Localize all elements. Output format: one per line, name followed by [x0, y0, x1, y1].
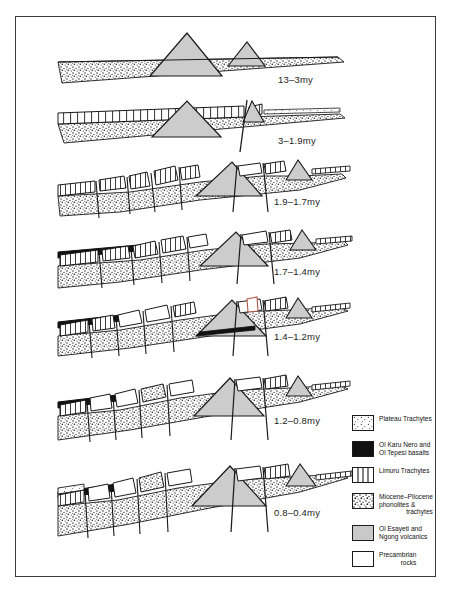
fault-block-6 [270, 230, 292, 243]
fault-block-3 [113, 478, 136, 497]
stage-4-section [58, 230, 352, 288]
legend-swatch-plateau-trachytes [352, 415, 374, 431]
stage-5-section [58, 297, 350, 358]
legend-swatch-miocene-pliocene [352, 493, 374, 509]
stage-label-2: 3–1.9my [278, 135, 316, 146]
fault-block-summit [236, 377, 262, 391]
stage-label-6: 1.2–0.8my [274, 415, 320, 426]
stage-label-1: 13–3my [278, 74, 313, 85]
legend-label-precambrian-rocks: Precambrian rocks [379, 550, 416, 566]
legend-item-ol-esayeti-ngong: Ol Esayeti and Ngong volcanics [352, 524, 438, 544]
legend-label-ol-esayeti-ngong: Ol Esayeti and Ngong volcanics [379, 524, 427, 540]
stage-6-section [58, 375, 350, 442]
fault-block-5 [169, 380, 194, 396]
stage-7-section [58, 464, 352, 538]
legend-swatch-ol-karu-nero-basalts [352, 441, 374, 457]
stage-label-7: 0.8–0.4my [274, 507, 320, 518]
stage-label-3: 1.9–1.7my [274, 196, 320, 207]
fault-block-5 [188, 234, 208, 248]
fault-block-3 [133, 241, 158, 258]
fault-block-2 [99, 176, 126, 191]
legend-line-2: rocks [379, 559, 416, 567]
legend-item-miocene-pliocene: Miocene–Pliocene phonolites & trachytes [352, 492, 438, 518]
legend-label-limuru-trachytes: Limuru Trachytes [379, 466, 430, 475]
legend-item-plateau-trachytes: Plateau Trachytes [352, 414, 438, 434]
volcano-cone-secondary [286, 160, 312, 180]
stage-3-section [58, 160, 350, 218]
fault-block-4 [141, 384, 166, 402]
fault-block-3 [129, 172, 150, 189]
fault-block-summit [236, 466, 262, 481]
volcano-cone-secondary [286, 376, 312, 396]
legend-label-ol-karu-nero-basalts: Ol Karu Nero and Ol Tepesi basalts [379, 440, 430, 456]
fault-block-summit [242, 231, 268, 245]
plateau-trachytes-capping [316, 236, 352, 244]
fault-block-6 [264, 297, 288, 311]
plateau-trachytes-capping [264, 108, 340, 114]
fault-block-4 [139, 472, 164, 492]
fault-block-5 [173, 302, 196, 317]
volcano-cone-ngong-main [150, 33, 222, 76]
fault-block-5 [167, 469, 192, 486]
legend-line-3: trachytes [379, 508, 433, 516]
legend-item-limuru-trachytes: Limuru Trachytes [352, 466, 438, 486]
legend-line-1: Miocene–Pliocene [379, 493, 433, 500]
legend-label-plateau-trachytes: Plateau Trachytes [379, 414, 432, 423]
fault-block-6 [264, 161, 286, 174]
volcano-cone-secondary [286, 298, 312, 318]
legend-line-2: Ngong volcanics [379, 533, 427, 541]
stage-label-4: 1.7–1.4my [274, 266, 320, 277]
legend-line-1: Ol Esayeti and [379, 525, 422, 532]
legend-swatch-limuru-trachytes [352, 467, 374, 483]
plateau-trachytes-capping [312, 166, 350, 174]
legend-line-1: Limuru Trachytes [379, 467, 430, 474]
volcano-cone-secondary [286, 464, 316, 486]
legend-item-ol-karu-nero-basalts: Ol Karu Nero and Ol Tepesi basalts [352, 440, 438, 460]
fault-block-summit [238, 163, 262, 176]
fault-block-4 [161, 236, 186, 253]
legend-line-2: phonolites & [379, 501, 433, 509]
volcano-cone-secondary [290, 230, 316, 250]
fault-block-6 [264, 464, 290, 479]
fault-block-graben [247, 297, 258, 312]
fault-block-4 [154, 166, 178, 185]
fault-block-3 [118, 310, 142, 327]
legend-label-miocene-pliocene: Miocene–Pliocene phonolites & trachytes [379, 492, 433, 516]
legend-line-1: Ol Karu Nero and [379, 441, 430, 448]
legend-item-precambrian-rocks: Precambrian rocks [352, 550, 438, 570]
legend-line-1: Plateau Trachytes [379, 415, 432, 422]
legend-line-1: Precambrian [379, 551, 416, 558]
volcano-cone-secondary [228, 42, 265, 66]
fault-block-1 [58, 181, 95, 196]
fault-block-3 [115, 389, 138, 407]
figure-root: 13–3my 3–1.9my 1.9–1.7my 1.7–1.4my 1.4–1… [0, 0, 452, 606]
stage-label-5: 1.4–1.2my [274, 331, 320, 342]
fault-block-2 [90, 394, 112, 411]
legend-line-2: Ol Tepesi basalts [379, 449, 430, 457]
legend-swatch-ol-esayeti-ngong [352, 525, 374, 541]
fault-block-5 [180, 165, 200, 180]
fault-block-6 [264, 375, 288, 389]
legend-swatch-precambrian-rocks [352, 551, 374, 567]
fault-block-4 [145, 305, 170, 322]
legend: Plateau Trachytes Ol Karu Nero and Ol Te… [352, 414, 438, 576]
fault-block-2 [88, 484, 110, 501]
